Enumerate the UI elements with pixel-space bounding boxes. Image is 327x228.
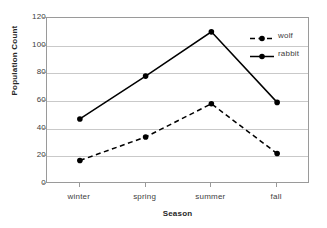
x-axis-title: Season <box>46 209 309 218</box>
y-tick-label: 40 <box>6 124 46 132</box>
series-line-rabbit <box>80 32 277 119</box>
y-tick-label: 0 <box>6 179 46 187</box>
y-tick-label: 80 <box>6 68 46 76</box>
data-point-wolf-winter <box>77 158 83 164</box>
y-tick-label: 60 <box>6 96 46 104</box>
x-tick-mark <box>210 183 211 187</box>
legend-item-rabbit: rabbit <box>249 48 309 66</box>
legend-marker <box>259 36 265 42</box>
x-tick-label: summer <box>175 192 245 201</box>
series-line-wolf <box>80 104 277 161</box>
x-tick-mark <box>276 183 277 187</box>
y-tick-label: 20 <box>6 151 46 159</box>
data-point-wolf-spring <box>143 134 149 140</box>
data-point-rabbit-spring <box>143 73 149 79</box>
data-point-wolf-fall <box>274 151 280 157</box>
y-tick-mark <box>42 183 46 184</box>
x-tick-label: spring <box>110 192 180 201</box>
x-tick-mark <box>79 183 80 187</box>
data-point-wolf-summer <box>209 101 215 107</box>
legend-line-sample-wolf <box>249 34 275 43</box>
data-point-rabbit-fall <box>274 100 280 106</box>
y-tick-label: 120 <box>6 13 46 21</box>
x-tick-label: fall <box>241 192 311 201</box>
legend: wolf rabbit <box>249 30 309 66</box>
data-point-rabbit-winter <box>77 116 83 122</box>
legend-label-wolf: wolf <box>278 31 293 40</box>
y-tick-label: 100 <box>6 41 46 49</box>
x-tick-mark <box>145 183 146 187</box>
data-point-rabbit-summer <box>209 29 215 35</box>
legend-line-sample-rabbit <box>249 52 275 61</box>
x-tick-label: winter <box>44 192 114 201</box>
line-chart: Population Count 020406080100120 winters… <box>0 0 327 228</box>
legend-label-rabbit: rabbit <box>278 49 299 58</box>
legend-marker <box>259 54 265 60</box>
legend-item-wolf: wolf <box>249 30 309 48</box>
